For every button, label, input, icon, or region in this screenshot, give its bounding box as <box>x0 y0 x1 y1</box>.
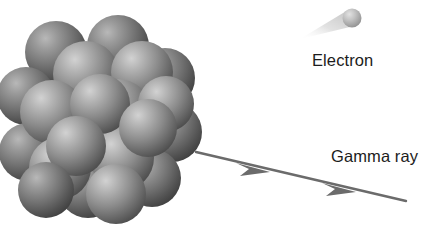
electron-label: Electron <box>312 52 373 69</box>
electron-particle <box>343 9 362 28</box>
gamma-ray-label: Gamma ray <box>331 148 418 165</box>
diagram-canvas <box>0 0 432 233</box>
nuclear-decay-figure: Electron Gamma ray <box>0 0 432 233</box>
